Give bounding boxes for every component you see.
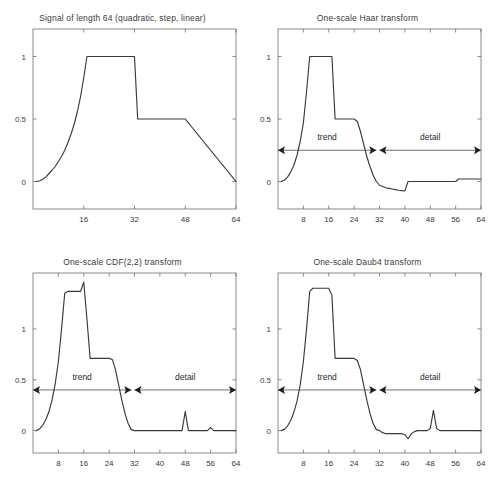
x-tick-label: 16 xyxy=(324,215,333,224)
plot-daub4: 81624324048566400.51trenddetail xyxy=(245,244,490,487)
y-tick-label: 0 xyxy=(267,427,272,436)
x-tick-label: 48 xyxy=(426,459,435,468)
x-tick-label: 32 xyxy=(375,215,384,224)
x-tick-label: 24 xyxy=(350,459,359,468)
plot-signal: 1632486400.51 xyxy=(0,0,245,243)
data-curve-signal xyxy=(36,57,236,182)
plot-frame xyxy=(33,273,236,453)
span-annotation-detail: detail xyxy=(135,372,237,394)
y-tick-label: 0.5 xyxy=(260,115,272,124)
data-curve-cdf22-transform xyxy=(36,282,236,430)
x-tick-label: 56 xyxy=(451,215,460,224)
x-tick-label: 64 xyxy=(232,459,241,468)
wavelet-transform-figure: Signal of length 64 (quadratic, step, li… xyxy=(0,0,490,487)
data-curve-daub4-transform xyxy=(281,288,481,439)
x-tick-label: 16 xyxy=(79,459,88,468)
x-tick-label: 56 xyxy=(206,459,215,468)
x-tick-label: 8 xyxy=(56,459,61,468)
y-tick-label: 0 xyxy=(22,427,27,436)
y-tick-label: 1 xyxy=(267,325,272,334)
y-tick-label: 0.5 xyxy=(15,115,27,124)
panel-haar: One-scale Haar transform 816243240485664… xyxy=(245,0,490,243)
span-annotation-label: detail xyxy=(420,132,440,142)
x-tick-label: 16 xyxy=(79,215,88,224)
x-tick-label: 64 xyxy=(477,215,486,224)
y-tick-label: 1 xyxy=(22,53,27,62)
x-tick-label: 40 xyxy=(400,459,409,468)
x-tick-label: 8 xyxy=(301,215,306,224)
span-annotation-label: trend xyxy=(72,372,92,382)
span-annotation-detail: detail xyxy=(380,132,482,154)
x-tick-label: 8 xyxy=(301,459,306,468)
plot-haar: 81624324048566400.51trenddetail xyxy=(245,0,490,243)
plot-cdf22: 81624324048566400.51trenddetail xyxy=(0,244,245,487)
y-tick-label: 0.5 xyxy=(15,376,27,385)
span-annotation-label: detail xyxy=(420,372,440,382)
span-annotation-detail: detail xyxy=(380,372,482,394)
y-tick-label: 1 xyxy=(267,53,272,62)
x-tick-label: 48 xyxy=(181,459,190,468)
x-tick-label: 32 xyxy=(375,459,384,468)
panel-cdf22: One-scale CDF(2,2) transform 81624324048… xyxy=(0,244,245,487)
panel-signal: Signal of length 64 (quadratic, step, li… xyxy=(0,0,245,243)
x-tick-label: 64 xyxy=(477,459,486,468)
span-annotation-label: trend xyxy=(317,372,337,382)
span-annotation-label: trend xyxy=(317,132,337,142)
x-tick-label: 32 xyxy=(130,459,139,468)
x-tick-label: 56 xyxy=(451,459,460,468)
data-curve-haar-transform xyxy=(281,57,481,191)
y-tick-label: 1 xyxy=(22,325,27,334)
x-tick-label: 32 xyxy=(130,215,139,224)
x-tick-label: 48 xyxy=(181,215,190,224)
x-tick-label: 24 xyxy=(105,459,114,468)
y-tick-label: 0 xyxy=(22,178,27,187)
span-annotation-label: detail xyxy=(175,372,195,382)
x-tick-label: 48 xyxy=(426,215,435,224)
x-tick-label: 16 xyxy=(324,459,333,468)
y-tick-label: 0.5 xyxy=(260,376,272,385)
x-tick-label: 64 xyxy=(232,215,241,224)
x-tick-label: 40 xyxy=(155,459,164,468)
x-tick-label: 40 xyxy=(400,215,409,224)
y-tick-label: 0 xyxy=(267,178,272,187)
panel-daub4: One-scale Daub4 transform 81624324048566… xyxy=(245,244,490,487)
x-tick-label: 24 xyxy=(350,215,359,224)
